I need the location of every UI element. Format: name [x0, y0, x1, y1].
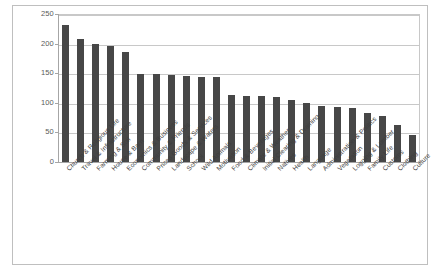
- x-axis-tick-mark: [405, 163, 406, 166]
- y-axis-tick-label: 50: [14, 127, 54, 136]
- x-axis-tick-mark: [133, 163, 134, 166]
- bar: [213, 77, 220, 162]
- x-axis-tick-mark: [194, 163, 195, 166]
- bar: [318, 106, 325, 162]
- x-axis-tick-mark: [314, 163, 315, 166]
- bar: [258, 96, 265, 162]
- x-axis-tick-mark: [420, 163, 421, 166]
- bar: [288, 100, 295, 162]
- bar: [243, 96, 250, 162]
- y-axis-tick-labels: 050100150200250: [10, 14, 54, 162]
- y-axis-tick-mark: [55, 44, 58, 45]
- bar: [168, 75, 175, 162]
- x-axis-tick-mark: [299, 163, 300, 166]
- y-axis-tick-mark: [55, 132, 58, 133]
- bar: [77, 39, 84, 162]
- bar: [379, 116, 386, 162]
- x-axis-tick-mark: [239, 163, 240, 166]
- x-axis-tick-mark: [103, 163, 104, 166]
- y-axis-tick-label: 250: [14, 9, 54, 18]
- x-axis-tick-mark: [149, 163, 150, 166]
- bar: [228, 95, 235, 162]
- x-axis-tick-mark: [209, 163, 210, 166]
- x-axis-tick-mark: [224, 163, 225, 166]
- bar: [349, 108, 356, 162]
- y-axis-tick-mark: [55, 14, 58, 15]
- bar: [122, 52, 129, 162]
- x-axis-tick-mark: [254, 163, 255, 166]
- bar: [107, 46, 114, 162]
- x-axis-tick-mark: [390, 163, 391, 166]
- bar: [409, 135, 416, 162]
- y-axis-tick-label: 200: [14, 39, 54, 48]
- y-axis-tick-mark: [55, 103, 58, 104]
- bar: [153, 74, 160, 162]
- x-axis-tick-mark: [118, 163, 119, 166]
- bar: [303, 103, 310, 162]
- x-axis-tick-mark: [284, 163, 285, 166]
- x-axis-tick-mark: [73, 163, 74, 166]
- y-axis-tick-label: 100: [14, 98, 54, 107]
- bars-layer: [58, 14, 420, 162]
- y-axis-tick-mark: [55, 73, 58, 74]
- bar: [92, 44, 99, 162]
- x-axis-tick-mark: [345, 163, 346, 166]
- bar: [394, 125, 401, 162]
- x-axis-tick-mark: [269, 163, 270, 166]
- y-axis-tick-label: 150: [14, 68, 54, 77]
- bar: [364, 113, 371, 162]
- x-axis-tick-mark: [375, 163, 376, 166]
- bar: [137, 74, 144, 162]
- bar: [62, 25, 69, 162]
- x-axis-tick-mark: [360, 163, 361, 166]
- bar: [198, 77, 205, 162]
- x-axis-tick-mark: [330, 163, 331, 166]
- x-axis-tick-mark: [164, 163, 165, 166]
- bar: [273, 97, 280, 162]
- bar: [334, 107, 341, 162]
- bar-chart-figure: 050100150200250 Church & Religious LifeT…: [0, 0, 436, 275]
- bar: [183, 76, 190, 162]
- y-axis-tick-mark: [55, 162, 58, 163]
- x-axis-tick-mark: [179, 163, 180, 166]
- x-axis-tick-mark: [88, 163, 89, 166]
- y-axis-tick-label: 0: [14, 157, 54, 166]
